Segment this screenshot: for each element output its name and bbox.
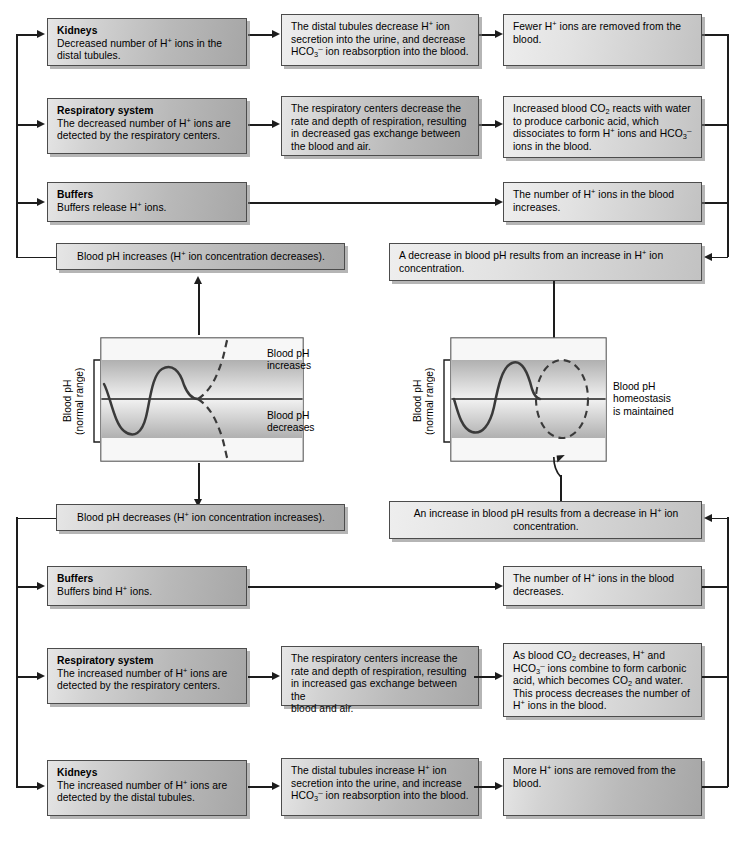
connector-right-bus-to-phincrease [712, 518, 728, 520]
box-kidneys-bottom[interactable]: Kidneys The increased number of H+ ions … [47, 760, 247, 816]
box-respiratory-bottom-body: The increased number of H+ ions aredetec… [57, 668, 227, 692]
connector-rightbox3-out [702, 202, 728, 204]
arrow-right-bus-to-phcause [704, 253, 712, 261]
box-respiratory-bottom[interactable]: Respiratory system The increased number … [47, 648, 247, 704]
arrow-right-bus-to-phincrease [704, 514, 712, 522]
arrow-mid-to-right-k [495, 30, 503, 38]
box-respiratory-bottom-result-body: As blood CO2 decreases, H+ andHCO3– ions… [513, 650, 690, 711]
arrow-to-respiratory-bottom [37, 672, 45, 680]
box-kidneys-bottom-mechanism[interactable]: The distal tubules increase H+ ionsecret… [281, 758, 479, 816]
connector-resp-to-mid [248, 124, 273, 126]
right-graph-plot [450, 337, 607, 462]
connector-leftgraph-down [198, 463, 200, 501]
connector-bus-to-respiratory [16, 124, 38, 126]
box-kidneys-bottom-result-body: More H+ ions are removed from theblood. [513, 765, 676, 789]
box-buffers-bottom-body: Buffers bind H+ ions. [57, 586, 152, 597]
box-kidneys-top[interactable]: Kidneys Decreased number of H+ ions in t… [47, 18, 247, 66]
box-kidneys-bottom-mechanism-body: The distal tubules increase H+ ionsecret… [291, 765, 469, 801]
connector-right-bus-top [727, 34, 729, 257]
connector-left-bus-bottom [16, 517, 18, 787]
box-buffers-top[interactable]: Buffers Buffers release H+ ions. [47, 182, 247, 222]
box-respiratory-top-result-body: Increased blood CO2 reacts with waterto … [513, 103, 691, 152]
left-graph-y-bracket [92, 359, 101, 443]
box-ph-increase-cause-body: An increase in blood pH results from a d… [399, 508, 693, 533]
connector-buffers-bottom-to-right [248, 586, 496, 588]
box-respiratory-top-mechanism-body: The respiratory centers decrease therate… [291, 103, 466, 152]
box-ph-increase-cause[interactable]: An increase in blood pH results from a d… [389, 501, 702, 539]
arrow-mid-to-right-kb [495, 782, 503, 790]
box-ph-decreases-body: Blood pH decreases (H+ ion concentration… [66, 512, 336, 525]
connector-left-bus-top [16, 34, 18, 258]
left-graph-y-axis-label-line2: (normal range) [74, 367, 85, 435]
box-kidneys-top-body: Decreased number of H+ ions in the dista… [57, 38, 222, 62]
box-buffers-bottom[interactable]: Buffers Buffers bind H+ ions. [47, 566, 247, 606]
box-kidneys-top-mechanism-body: The distal tubules decrease H+ ionsecret… [291, 21, 469, 57]
box-respiratory-top-header: Respiratory system [57, 105, 238, 118]
arrow-mid-to-right-rb [495, 672, 503, 680]
connector-phincrease-cause-up [560, 475, 562, 501]
connector-resp-bottom-to-mid [248, 676, 273, 678]
box-respiratory-bottom-mechanism-body: The respiratory centers increase therate… [291, 653, 466, 714]
arrow-resp-bottom-to-mid [272, 672, 280, 680]
box-respiratory-top-mechanism[interactable]: The respiratory centers decrease therate… [281, 96, 479, 156]
left-graph-annotation-bottom: Blood pHdecreases [267, 410, 315, 435]
box-kidneys-top-result[interactable]: Fewer H+ ions are removed from theblood. [503, 14, 702, 66]
box-respiratory-top-result[interactable]: Increased blood CO2 reacts with waterto … [503, 96, 702, 158]
left-graph-y-axis-label-line1: Blood pH [62, 380, 73, 422]
arrow-to-buffers [37, 198, 45, 206]
box-ph-increases-body: Blood pH increases (H+ ion concentration… [66, 251, 336, 264]
box-ph-increases[interactable]: Blood pH increases (H+ ion concentration… [56, 243, 345, 270]
connector-rightbox1-out-bottom [702, 586, 728, 588]
right-graph-y-axis-label-line1: Blood pH [412, 380, 423, 422]
box-respiratory-bottom-mechanism[interactable]: The respiratory centers increase therate… [281, 646, 479, 706]
diagram-canvas: Kidneys Decreased number of H+ ions in t… [0, 0, 745, 852]
right-graph-y-axis-label-line2: (normal range) [424, 367, 435, 435]
connector-bus-to-buffers [16, 202, 38, 204]
arrow-to-buffers-bottom [37, 582, 45, 590]
arrow-buffers-bottom-to-right [495, 582, 503, 590]
connector-rightbox1-out [702, 34, 728, 36]
connector-kidneys-to-mid [248, 34, 273, 36]
arrow-kidneys-to-mid [272, 30, 280, 38]
connector-rightbox2-out-bottom [702, 676, 728, 678]
connector-mid-to-right-kb [474, 786, 496, 788]
box-kidneys-bottom-result[interactable]: More H+ ions are removed from theblood. [503, 758, 702, 816]
connector-bus-to-buffers-bottom [16, 586, 38, 588]
connector-right-bus-bottom [727, 517, 729, 787]
box-ph-decrease-cause[interactable]: A decrease in blood pH results from an i… [389, 243, 702, 281]
arrow-buffers-to-right [495, 198, 503, 206]
connector-phdecrease-to-bus [16, 518, 56, 520]
right-graph-y-bracket [442, 359, 451, 443]
connector-bus-to-kidneys-bottom [16, 786, 38, 788]
right-graph-annotation: Blood pHhomeostasisis maintained [613, 381, 674, 418]
connector-left-bus-to-phbox [16, 257, 56, 259]
arrow-to-kidneys-bottom [37, 782, 45, 790]
box-buffers-bottom-result[interactable]: The number of H+ ions in the blooddecrea… [503, 566, 702, 606]
box-respiratory-bottom-result[interactable]: As blood CO2 decreases, H+ andHCO3– ions… [503, 643, 702, 717]
box-kidneys-top-result-body: Fewer H+ ions are removed from theblood. [513, 21, 681, 45]
arrow-mid-to-right-r [495, 120, 503, 128]
box-respiratory-top[interactable]: Respiratory system The decreased number … [47, 98, 247, 154]
box-buffers-top-result[interactable]: The number of H+ ions in the bloodincrea… [503, 182, 702, 222]
connector-leftgraph-up [198, 283, 200, 335]
box-buffers-top-header: Buffers [57, 189, 238, 202]
connector-bus-to-kidneys [16, 34, 38, 36]
arrow-to-respiratory [37, 120, 45, 128]
connector-mid-to-right-rb [474, 676, 496, 678]
box-kidneys-bottom-header: Kidneys [57, 767, 238, 780]
connector-buffers-to-right [248, 202, 496, 204]
connector-rightbox3-out-bottom [702, 786, 728, 788]
right-graph-y-axis-label: Blood pH(normal range) [412, 357, 442, 445]
box-buffers-top-body: Buffers release H+ ions. [57, 202, 167, 213]
box-respiratory-bottom-header: Respiratory system [57, 655, 238, 668]
box-kidneys-top-mechanism[interactable]: The distal tubules decrease H+ ionsecret… [281, 14, 479, 66]
arrow-phincrease-cause-up-head [544, 453, 570, 477]
box-buffers-bottom-header: Buffers [57, 573, 238, 586]
connector-right-bus-to-phcause [712, 257, 728, 259]
connector-rightbox2-out [702, 124, 728, 126]
left-graph-y-axis-label: Blood pH(normal range) [62, 357, 92, 445]
box-ph-decrease-cause-body: A decrease in blood pH results from an i… [399, 250, 663, 274]
box-ph-decreases[interactable]: Blood pH decreases (H+ ion concentration… [56, 504, 345, 531]
arrow-resp-to-mid [272, 120, 280, 128]
box-buffers-bottom-result-body: The number of H+ ions in the blooddecrea… [513, 573, 674, 597]
